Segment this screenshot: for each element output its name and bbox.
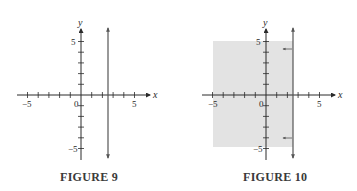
x-axis-label: x	[152, 89, 158, 100]
figure-10-graph: x y −5 0 5 5 −5	[202, 17, 343, 160]
figures-canvas: x y −5 0 5 5 −5 x y −5 0	[0, 0, 357, 191]
y-tick-label-neg5: −5	[68, 144, 78, 154]
y-axis-label: y	[262, 17, 268, 28]
y-tick-label-5: 5	[256, 37, 261, 47]
x-tick-label-5: 5	[132, 99, 137, 109]
y-axis-label: y	[77, 17, 83, 28]
figure-9-graph: x y −5 0 5 5 −5	[17, 17, 158, 160]
y-tick-label-5: 5	[71, 37, 76, 47]
x-tick-label-neg5: −5	[22, 99, 32, 109]
figure-9-caption: FIGURE 9	[60, 170, 118, 185]
shaded-region	[213, 41, 293, 147]
x-axis-label: x	[337, 89, 343, 100]
x-tick-label-0: 0	[259, 99, 264, 109]
x-tick-label-0: 0	[74, 99, 79, 109]
x-tick-label-neg5: −5	[208, 99, 218, 109]
figure-10-caption: FIGURE 10	[243, 170, 307, 185]
y-tick-label-neg5: −5	[253, 144, 263, 154]
x-tick-label-5: 5	[317, 99, 322, 109]
